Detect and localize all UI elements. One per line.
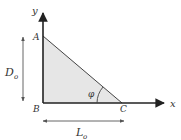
point-a-label: A — [32, 32, 40, 42]
width-label: L o — [75, 126, 87, 140]
triangle-diagram: y x A B C φ D o L o — [0, 0, 181, 140]
svg-text:D: D — [4, 66, 14, 79]
point-c-label: C — [120, 104, 127, 114]
height-label: D o — [4, 66, 18, 81]
x-axis-label: x — [170, 98, 176, 109]
point-b-label: B — [32, 104, 40, 114]
svg-text:o: o — [83, 133, 87, 140]
angle-label: φ — [88, 89, 95, 99]
svg-text:o: o — [14, 73, 18, 81]
y-axis-label: y — [31, 5, 38, 16]
